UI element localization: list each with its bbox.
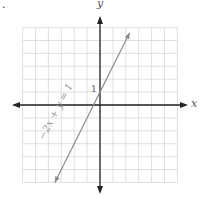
y-intercept-label: 1 — [91, 84, 97, 94]
x-axis-label: x — [191, 97, 197, 110]
arrow-down-icon — [97, 186, 103, 194]
arrow-left-icon — [12, 102, 20, 108]
arrow-up-icon — [97, 16, 103, 24]
graph-line — [55, 33, 130, 183]
y-axis-label: y — [97, 0, 103, 10]
coordinate-plane — [0, 0, 202, 198]
arrow-right-icon — [180, 102, 188, 108]
